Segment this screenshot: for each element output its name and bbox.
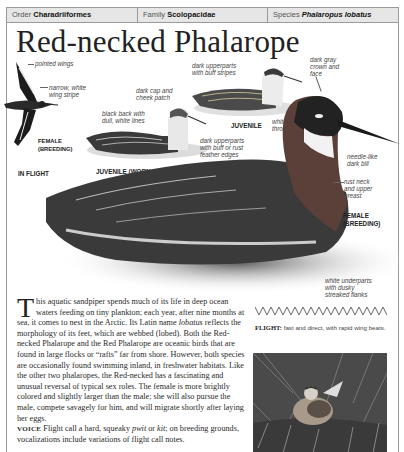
label-rust-neck: rust neck and upper breast xyxy=(344,178,372,200)
flight-pattern-zigzag-icon xyxy=(255,306,387,316)
latin-name: lobatus xyxy=(179,318,203,327)
label-buff-stripes: dark upperparts with buff stripes xyxy=(192,62,236,76)
label-pointed-wings: pointed wings xyxy=(35,60,74,67)
species-description: This aquatic sandpiper spends much of it… xyxy=(17,297,249,445)
leader-line xyxy=(28,64,34,65)
family-value: Scolopacidae xyxy=(167,10,215,19)
leader-line xyxy=(40,87,48,88)
label-feather-edges: dark upperparts with buff or rust feathe… xyxy=(200,137,244,159)
voice-section: VOICE Flight call a hard, squeaky pwit o… xyxy=(17,424,249,445)
flight-caption: FLIGHT: fast and direct, with rapid wing… xyxy=(255,324,386,331)
label-needle-bill: needle-like dark bill xyxy=(347,153,377,167)
species-value: Phalaropus lobatus xyxy=(302,10,372,19)
caption-female-breeding: FEMALE (BREEDING) xyxy=(343,212,380,227)
label-gray-crown: dark gray crown and face xyxy=(310,56,339,78)
family-cell: Family Scolopacidae xyxy=(138,8,268,22)
order-cell: Order Charadriiformes xyxy=(7,8,138,22)
photo-image xyxy=(253,353,387,452)
drop-cap: T xyxy=(17,298,34,318)
voice-label: VOICE xyxy=(17,425,41,433)
leader-line xyxy=(334,182,344,183)
species-cell: Species Phalaropus lobatus xyxy=(268,8,398,22)
label-white-underparts: white underparts with dusky streaked fla… xyxy=(325,277,372,299)
order-value: Charadriiformes xyxy=(33,10,91,19)
page-title: Red-necked Phalarope xyxy=(16,24,300,60)
taxonomy-header: Order Charadriiformes Family Scolopacida… xyxy=(6,7,399,23)
nesting-bird-photo xyxy=(253,353,387,452)
